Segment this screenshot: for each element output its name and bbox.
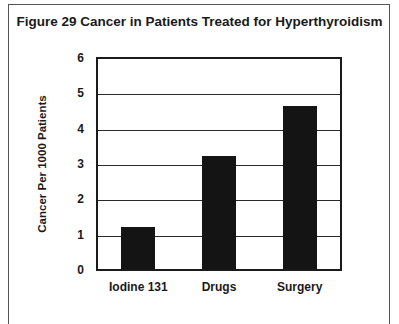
y-tick-label: 2: [60, 192, 84, 206]
bar-drugs: [202, 156, 236, 269]
y-axis-label: Cancer Per 1000 Patients: [36, 95, 48, 232]
y-tick-label: 5: [60, 86, 84, 100]
plot-area: [96, 57, 342, 271]
y-tick-label: 0: [60, 263, 84, 277]
y-tick-label: 6: [60, 51, 84, 65]
y-tick-label: 3: [60, 157, 84, 171]
bar-iodine-131: [121, 227, 155, 269]
chart-title: Figure 29 Cancer in Patients Treated for…: [0, 14, 399, 29]
bar-surgery: [283, 106, 317, 269]
y-tick-label: 1: [60, 228, 84, 242]
gridline: [98, 94, 340, 95]
x-tick-label: Surgery: [250, 280, 350, 294]
y-tick-label: 4: [60, 122, 84, 136]
